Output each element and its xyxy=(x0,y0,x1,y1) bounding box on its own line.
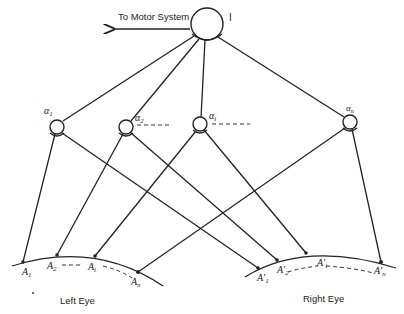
svg-text:A2: A2 xyxy=(46,260,57,273)
connection-motor-alpha1 xyxy=(63,36,194,121)
svg-text:α2: α2 xyxy=(135,112,144,125)
connection-alphai-Ai xyxy=(95,131,196,256)
alphan-circle xyxy=(343,115,357,129)
right-dash-1 xyxy=(288,266,318,272)
svg-text:A'1: A'1 xyxy=(256,272,269,285)
right-point-A2prime xyxy=(275,258,279,262)
right-point-A1prime xyxy=(256,266,260,270)
left-eye: A1 A2 Ai An Left Eye xyxy=(12,253,163,306)
interneuron-alpha2: α2 xyxy=(119,112,170,136)
connection-motor-alphan xyxy=(218,37,344,117)
right-sub-Aiprime: i xyxy=(325,262,327,270)
right-dash-2 xyxy=(326,266,373,273)
connection-alphai-Aiprime xyxy=(204,130,306,253)
right-eye-title: Right Eye xyxy=(303,293,344,304)
stray-dot xyxy=(32,292,34,294)
svg-text:An: An xyxy=(130,276,141,289)
left-sub-An: n xyxy=(137,281,141,289)
svg-text:αi: αi xyxy=(209,110,216,123)
right-eye: A'1 A'2 A'i A'n Right Eye xyxy=(245,251,396,304)
motor-output: To Motor System xyxy=(114,11,190,29)
connection-alphan-Anprime xyxy=(352,129,381,262)
retina-connections xyxy=(23,128,381,272)
svg-text:A'i: A'i xyxy=(316,257,327,270)
left-eye-title: Left Eye xyxy=(60,295,95,306)
alphai-subscript: i xyxy=(214,115,216,123)
interneuron-alpha1: α1 xyxy=(44,105,64,136)
left-point-An xyxy=(136,270,140,274)
left-point-A2 xyxy=(55,253,59,257)
interneuron-alphan: αn xyxy=(343,103,357,131)
svg-text:α1: α1 xyxy=(44,105,53,118)
left-point-A1 xyxy=(21,260,25,264)
right-point-Anprime xyxy=(379,260,383,264)
connection-motor-alpha2 xyxy=(131,39,199,121)
motor-neuron-circle xyxy=(191,8,223,40)
alpha1-circle xyxy=(50,120,64,134)
alpha2-circle xyxy=(119,120,133,134)
svg-text:Ai: Ai xyxy=(87,261,96,274)
alpha2-subscript: 2 xyxy=(140,117,144,125)
alphai-circle xyxy=(193,117,207,131)
svg-text:A'2: A'2 xyxy=(276,264,289,277)
alphan-subscript: n xyxy=(351,107,354,114)
motor-neuron-label: I xyxy=(229,12,232,23)
motor-connections xyxy=(63,36,344,121)
connection-alpha1-A1 xyxy=(23,134,55,262)
motor-neuron: I xyxy=(191,8,232,40)
right-sub-Anprime: n xyxy=(382,270,386,278)
left-sub-A1: 1 xyxy=(28,271,32,279)
svg-text:A'n: A'n xyxy=(373,265,386,278)
motor-output-label: To Motor System xyxy=(118,11,189,22)
left-sub-Ai: i xyxy=(94,266,96,274)
connection-alpha1-A1prime xyxy=(62,133,258,268)
connection-alpha2-A2prime xyxy=(131,133,277,260)
right-sub-A1prime: 1 xyxy=(265,277,269,285)
right-point-Aiprime xyxy=(304,251,308,255)
right-sub-A2prime: 2 xyxy=(285,269,289,277)
connection-motor-alphai xyxy=(201,40,205,118)
svg-text:αn: αn xyxy=(346,103,354,114)
binocular-neural-diagram: I To Motor System α1 α2 αi αn xyxy=(0,0,404,314)
svg-text:A1: A1 xyxy=(21,266,32,279)
connection-alphan-An xyxy=(138,128,345,272)
alpha1-subscript: 1 xyxy=(49,110,53,118)
left-sub-A2: 2 xyxy=(53,265,57,273)
left-point-Ai xyxy=(93,254,97,258)
